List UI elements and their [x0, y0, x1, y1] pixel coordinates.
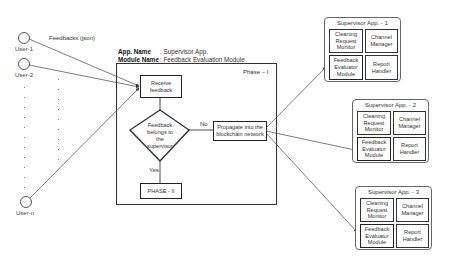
report-handler: Report Handler	[393, 137, 426, 161]
cleaning-request-monitor: Cleaning Request Monitor	[360, 198, 394, 222]
report-handler: Report Handler	[365, 55, 398, 80]
feedback-evaluator-module: Feedback Evaluator Module	[357, 137, 391, 161]
feedback-evaluator-module: Feedback Evaluator Module	[329, 55, 363, 80]
supervisor-app-3: Supervisor App. - 3 Cleaning Request Mon…	[355, 186, 432, 250]
supervisor-app-3-title: Supervisor App. - 3	[356, 189, 431, 195]
feedback-label: Feedbacks (json)	[49, 35, 95, 42]
decision-line-4: supervisor	[134, 143, 186, 150]
report-handler: Report Handler	[396, 224, 429, 248]
yes-label: Yes	[149, 167, 159, 174]
supervisor-app-2: Supervisor App. - 2 Cleaning Request Mon…	[352, 99, 429, 163]
propagate-box: Propagate into the blockchain network	[213, 121, 267, 141]
channel-manager: Channel Manager	[365, 29, 398, 53]
phase-2-box: PHASE - II	[140, 183, 182, 199]
receive-feedback-box: Receive feedback	[140, 75, 182, 98]
decision-line-2: belongs to	[134, 129, 186, 136]
decision-text: Feedback belongs to the supervisor	[134, 122, 186, 150]
supervisor-app-2-title: Supervisor App. - 2	[353, 102, 428, 108]
app-name-value: : Supervisor App.	[160, 48, 208, 55]
feedback-evaluator-module: Feedback Evaluator Module	[360, 224, 394, 248]
user-n-icon	[21, 197, 32, 208]
supervisor-app-1: Supervisor App. - 1 Cleaning Request Mon…	[324, 17, 401, 82]
channel-manager: Channel Manager	[393, 111, 426, 135]
user-2-label: User-2	[15, 72, 33, 78]
user-1-label: User-1	[15, 46, 33, 52]
supervisor-app-1-title: Supervisor App. - 1	[325, 20, 400, 26]
channel-manager: Channel Manager	[396, 198, 429, 222]
phase-1-title: Phase – I	[243, 69, 268, 76]
no-label: No	[200, 121, 208, 128]
app-name-key: App. Name	[118, 48, 151, 55]
decision-line-1: Feedback	[134, 122, 186, 129]
user-1-icon	[19, 33, 30, 44]
decision-line-3: the	[134, 136, 186, 143]
user-n-label: User-n	[16, 210, 34, 216]
cleaning-request-monitor: Cleaning Request Monitor	[329, 29, 363, 53]
user-2-icon	[19, 59, 30, 70]
cleaning-request-monitor: Cleaning Request Monitor	[357, 111, 391, 135]
